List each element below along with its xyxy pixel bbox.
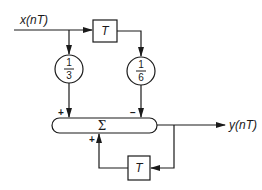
multiplier-one-third: 1 3 — [55, 55, 83, 83]
delay-block-forward: T — [93, 20, 117, 42]
multiplier-right-numerator: 1 — [138, 59, 144, 70]
output-label: y(nT) — [228, 118, 257, 132]
multiplier-left-denominator: 3 — [66, 70, 72, 81]
summer-sign-right: − — [130, 107, 136, 118]
input-label: x(nT) — [19, 13, 48, 27]
feedback-line-out — [99, 134, 128, 168]
block-diagram: x(nT) T 1 3 1 6 Σ + − + y(nT) T — [0, 0, 262, 190]
multiplier-left-numerator: 1 — [66, 57, 72, 68]
multiplier-one-sixth: 1 6 — [127, 57, 155, 85]
output-signal: y(nT) — [157, 118, 257, 132]
multiplier-right-denominator: 6 — [138, 72, 144, 83]
summer-sign-left: + — [58, 107, 64, 118]
input-signal: x(nT) — [14, 13, 92, 30]
summer-sign-feedback: + — [89, 134, 95, 145]
branch-line-right — [117, 31, 141, 56]
delay-block-feedback: T — [128, 156, 150, 180]
summer-sigma: Σ — [98, 119, 106, 133]
